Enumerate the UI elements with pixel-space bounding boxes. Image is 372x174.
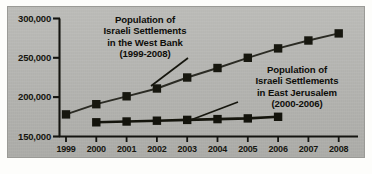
x-tick-label-2008: 2008 xyxy=(319,144,359,154)
east-jerusalem-annotation-line-3: in East Jerusalem xyxy=(232,87,362,98)
y-tick-label-300000: 300,000 xyxy=(6,13,51,24)
west-bank-annotation-years: (1999-2008) xyxy=(80,48,210,59)
west-bank-annotation-line-1: Population of xyxy=(80,14,210,25)
y-tick-label-150000: 150,000 xyxy=(6,131,51,142)
east-jerusalem-annotation-years: (2000-2006) xyxy=(232,98,362,109)
west-bank-annotation-line-2: Israeli Settlements xyxy=(80,25,210,36)
y-tick-label-250000: 250,000 xyxy=(6,52,51,63)
chart-panel: 300,000 250,000 200,000 150,000 1999 200… xyxy=(7,6,365,158)
east-jerusalem-annotation-line-1: Population of xyxy=(232,64,362,75)
west-bank-annotation: Population of Israeli Settlements in the… xyxy=(80,14,210,60)
series-markers-east-jerusalem xyxy=(92,113,282,127)
y-tick-label-200000: 200,000 xyxy=(6,91,51,102)
leader-line-west-bank xyxy=(151,58,188,86)
chart-figure: 300,000 250,000 200,000 150,000 1999 200… xyxy=(0,0,372,174)
east-jerusalem-annotation: Population of Israeli Settlements in Eas… xyxy=(232,64,362,110)
west-bank-annotation-line-3: in the West Bank xyxy=(80,37,210,48)
east-jerusalem-annotation-line-2: Israeli Settlements xyxy=(232,75,362,86)
